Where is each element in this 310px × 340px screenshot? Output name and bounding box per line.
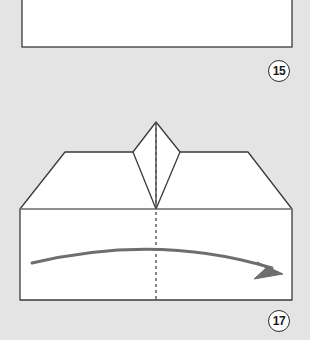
origami-diagram-canvas (0, 0, 310, 340)
step-number-17: 17 (268, 310, 290, 332)
step-17-panel (20, 122, 292, 300)
step-15-panel (22, 0, 292, 47)
step-number-15: 15 (268, 60, 290, 82)
origami-diagram-root: 15 17 (0, 0, 310, 340)
step-15-paper-rect (22, 0, 292, 47)
